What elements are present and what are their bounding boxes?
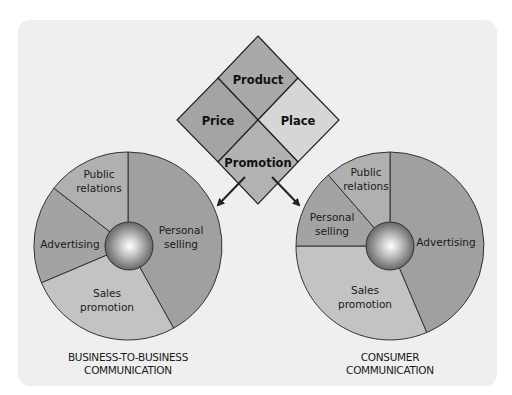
consumer-label-advertising: Advertising	[416, 236, 475, 248]
b2b-caption-line2: COMMUNICATION	[48, 364, 208, 377]
place-label: Place	[281, 114, 316, 128]
arrow-to-consumer-icon	[272, 177, 299, 205]
consumer-label-sales-promotion-2: promotion	[338, 298, 392, 310]
consumer-label-public-relations: Public	[350, 166, 381, 178]
price-label: Price	[202, 114, 235, 128]
b2b-label-sales-promotion-2: promotion	[80, 301, 134, 313]
marketing-mix-diamond: Product Price Place Promotion	[177, 36, 339, 204]
consumer-label-personal-selling: Personal	[310, 211, 355, 223]
product-label: Product	[233, 73, 284, 87]
consumer-label-personal-selling-2: selling	[315, 225, 349, 237]
consumer-label-sales-promotion: Sales	[351, 284, 379, 296]
b2b-sphere-icon	[105, 222, 153, 270]
promotion-label: Promotion	[224, 156, 291, 170]
b2b-label-public-relations-2: relations	[76, 182, 121, 194]
consumer-caption-line1: CONSUMER	[315, 351, 465, 364]
b2b-label-personal-selling-2: selling	[164, 238, 198, 250]
consumer-caption: CONSUMER COMMUNICATION	[315, 351, 465, 377]
consumer-pie-chart: Public relations Personal selling Advert…	[296, 152, 484, 340]
b2b-caption: BUSINESS-TO-BUSINESS COMMUNICATION	[48, 351, 208, 377]
b2b-pie-chart: Public relations Advertising Personal se…	[34, 152, 222, 340]
arrow-to-b2b-icon	[218, 177, 245, 205]
promotion-mix-diagram: Product Price Place Promotion Public rel…	[0, 0, 512, 395]
consumer-label-public-relations-2: relations	[343, 180, 388, 192]
b2b-label-personal-selling: Personal	[159, 224, 204, 236]
consumer-caption-line2: COMMUNICATION	[315, 364, 465, 377]
b2b-label-advertising: Advertising	[40, 238, 99, 250]
b2b-label-public-relations: Public	[83, 168, 114, 180]
b2b-label-sales-promotion: Sales	[93, 287, 121, 299]
consumer-sphere-icon	[366, 222, 414, 270]
b2b-caption-line1: BUSINESS-TO-BUSINESS	[48, 351, 208, 364]
